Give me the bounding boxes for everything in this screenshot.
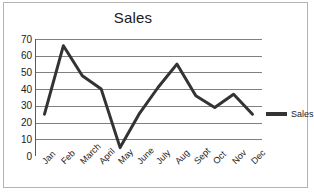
chart-title: Sales [4,9,262,26]
chart-legend: Sales [266,109,314,119]
y-tick-label: 20 [10,117,32,128]
y-tick-label: 50 [10,67,32,78]
y-tick-label: 30 [10,100,32,111]
legend-label-sales: Sales [291,109,314,119]
y-tick-label: 10 [10,134,32,145]
x-axis: JanFebMarchAprilMayJuneJulyAugSeptOctNov… [35,159,262,193]
y-tick-label: 60 [10,50,32,61]
y-tick-label: 0 [10,151,32,162]
y-tick-label: 70 [10,34,32,45]
y-tick-label: 40 [10,84,32,95]
line-chart-svg [35,39,262,156]
plot-area [35,39,262,156]
legend-swatch-sales [266,112,287,116]
chart-frame: Sales 010203040506070 JanFebMarchAprilMa… [3,2,308,188]
y-axis: 010203040506070 [10,33,32,162]
series-line-sales [45,46,253,148]
